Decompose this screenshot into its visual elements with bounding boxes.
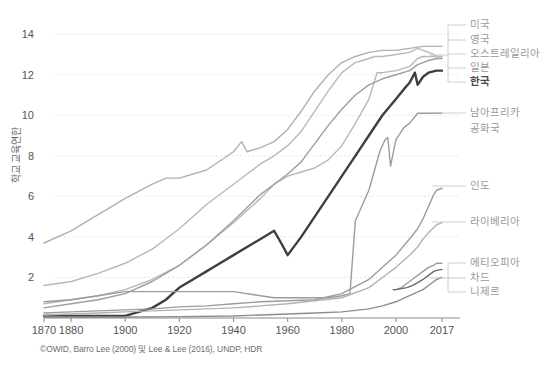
x-axis-tick-label: 1900	[113, 324, 137, 336]
legend-label-인도[interactable]: 인도	[470, 179, 490, 191]
legend-label-오스트레일리아[interactable]: 오스트레일리아	[470, 47, 540, 59]
source-credit: ©OWID, Barro Lee (2000) 및 Lee & Lee (201…	[40, 342, 262, 354]
legend-label-일본[interactable]: 일본	[470, 61, 490, 73]
y-axis-tick-label: 2	[28, 271, 34, 283]
x-axis-tick-label: 1940	[221, 324, 245, 336]
series-line-남아프리카 공화국	[44, 113, 442, 302]
series-line-한국	[44, 71, 442, 316]
legend-label-에티오피아[interactable]: 에티오피아	[470, 256, 520, 268]
y-axis-title: 학교 교육연한	[11, 127, 22, 184]
legend-label-라이베리아[interactable]: 라이베리아	[470, 215, 520, 227]
line-chart-svg: 1412108642187018801900192019401960198020…	[0, 0, 557, 371]
series-line-일본	[44, 58, 442, 307]
x-axis-tick-label: 1870	[32, 324, 56, 336]
x-axis-tick-label: 1920	[167, 324, 191, 336]
x-axis-tick-label: 1880	[59, 324, 83, 336]
y-axis-tick-label: 14	[22, 28, 34, 40]
legend-label-남아프리카[interactable]: 남아프리카	[470, 106, 520, 118]
legend-label-차드[interactable]: 차드	[470, 271, 490, 283]
legend-label-한국[interactable]: 한국	[470, 75, 490, 87]
x-axis-tick-label: 2017	[430, 324, 454, 336]
y-axis-tick-label: 12	[22, 69, 34, 81]
x-axis-tick-label: 1960	[275, 324, 299, 336]
x-axis-tick-label: 2000	[384, 324, 408, 336]
legend-label-영국[interactable]: 영국	[470, 33, 490, 45]
series-line-에티오피아	[393, 263, 442, 289]
legend-label-니제르[interactable]: 니제르	[470, 285, 500, 297]
y-axis-tick-label: 6	[28, 190, 34, 202]
legend-label-공화국[interactable]: 공화국	[470, 122, 500, 134]
x-axis-tick-label: 1980	[330, 324, 354, 336]
legend-label-미국[interactable]: 미국	[470, 18, 490, 30]
chart-container: 1412108642187018801900192019401960198020…	[0, 0, 557, 371]
y-axis-tick-label: 4	[28, 231, 34, 243]
y-axis-tick-label: 8	[28, 150, 34, 162]
series-line-라이베리아	[44, 223, 442, 315]
y-axis-tick-label: 10	[22, 109, 34, 121]
series-line-차드	[393, 269, 442, 289]
